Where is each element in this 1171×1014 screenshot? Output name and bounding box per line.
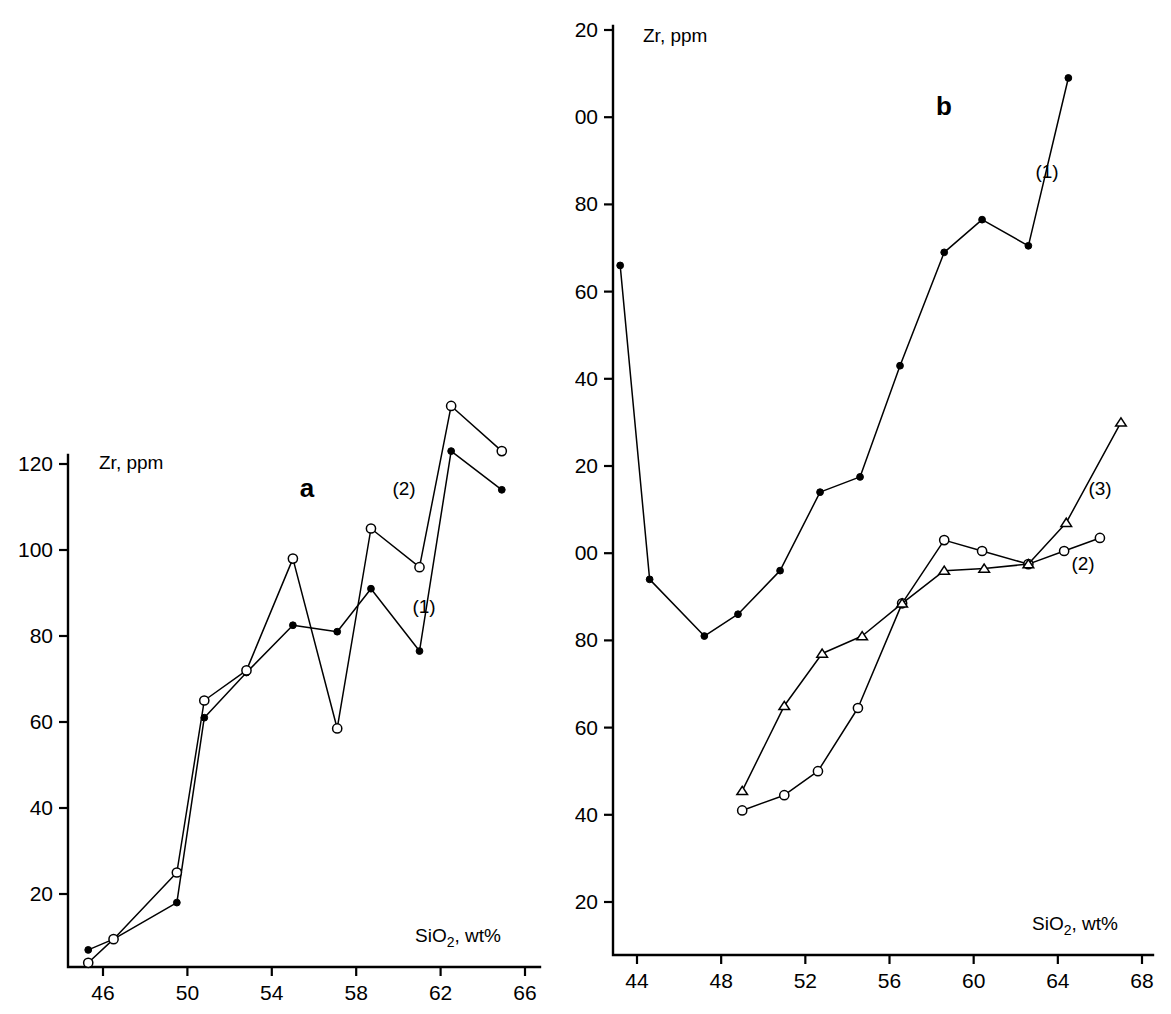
y-tick-label: 100	[575, 541, 598, 564]
x-axis-ticks-a: 465054586266	[91, 967, 536, 1004]
y-tick-label: 120	[575, 454, 598, 477]
series-line	[742, 422, 1121, 790]
x-tick-label: 56	[878, 969, 901, 992]
data-point-marker	[977, 546, 986, 555]
x-axis-title: SiO2, wt%	[415, 925, 501, 950]
series-annotation-label: (2)	[392, 478, 415, 499]
y-tick-label: 100	[18, 538, 53, 561]
data-point-marker	[288, 554, 297, 563]
x-tick-label: 54	[260, 981, 284, 1004]
data-point-marker	[416, 648, 423, 655]
data-point-marker	[447, 401, 456, 410]
data-point-marker	[242, 666, 251, 675]
y-tick-label: 200	[575, 105, 598, 128]
x-tick-label: 58	[345, 981, 368, 1004]
y-axis-title: Zr, ppm	[643, 25, 707, 46]
series-annotation-label: (2)	[1071, 553, 1094, 574]
data-point-marker	[857, 474, 864, 481]
data-point-marker	[817, 649, 828, 657]
panel-b: 2040608010012014016018020022044485256606…	[575, 0, 1171, 1014]
series-line	[742, 538, 1100, 811]
x-tick-label: 46	[91, 981, 114, 1004]
data-point-marker	[1025, 242, 1032, 249]
y-tick-label: 20	[30, 882, 53, 905]
data-point-marker	[853, 703, 862, 712]
x-tick-label: 68	[1130, 969, 1153, 992]
y-tick-label: 40	[30, 796, 53, 819]
data-point-marker	[737, 786, 748, 794]
series-a-2	[84, 401, 507, 967]
data-point-marker	[897, 362, 904, 369]
y-tick-label: 60	[575, 716, 598, 739]
figure-container: 20406080100120465054586266Zr, ppmSiO2, w…	[0, 0, 1171, 1014]
panel-a: 20406080100120465054586266Zr, ppmSiO2, w…	[0, 0, 575, 1014]
y-tick-label: 20	[575, 890, 598, 913]
data-point-marker	[498, 486, 505, 493]
series-line	[620, 78, 1068, 636]
data-point-marker	[701, 633, 708, 640]
x-tick-label: 62	[429, 981, 452, 1004]
data-point-marker	[1095, 533, 1104, 542]
axis-spine	[68, 455, 540, 967]
data-point-marker	[738, 806, 747, 815]
data-point-marker	[617, 262, 624, 269]
x-tick-label: 66	[513, 981, 536, 1004]
data-point-marker	[1065, 75, 1072, 82]
x-tick-label: 60	[962, 969, 985, 992]
data-point-marker	[780, 791, 789, 800]
data-point-marker	[366, 524, 375, 533]
axis-spine	[613, 26, 1153, 955]
y-axis-ticks-a: 20406080100120	[18, 452, 68, 905]
x-tick-label: 44	[625, 969, 649, 992]
data-point-marker	[1061, 518, 1072, 526]
data-point-marker	[415, 563, 424, 572]
data-point-marker	[290, 622, 297, 629]
series-line	[88, 451, 502, 950]
data-point-marker	[777, 567, 784, 574]
x-axis-title: SiO2, wt%	[1032, 913, 1118, 938]
data-point-marker	[200, 696, 209, 705]
series-annotation-label: (1)	[1035, 161, 1058, 182]
data-point-marker	[368, 585, 375, 592]
y-tick-label: 140	[575, 367, 598, 390]
data-point-marker	[173, 899, 180, 906]
series-line	[88, 406, 502, 963]
panel-letter-a: a	[300, 473, 315, 503]
y-tick-label: 220	[575, 18, 598, 41]
x-tick-label: 64	[1046, 969, 1070, 992]
series-b-1	[617, 75, 1072, 640]
data-point-marker	[84, 958, 93, 967]
data-point-marker	[1060, 546, 1069, 555]
data-point-marker	[646, 576, 653, 583]
data-point-marker	[1116, 418, 1127, 426]
series-b-2	[738, 533, 1105, 815]
data-point-marker	[172, 868, 181, 877]
x-tick-label: 50	[176, 981, 199, 1004]
axes-group-a	[68, 455, 540, 967]
y-tick-label: 60	[30, 710, 53, 733]
y-tick-label: 80	[30, 624, 53, 647]
data-point-marker	[940, 536, 949, 545]
series-annotation-label: (1)	[412, 596, 435, 617]
x-axis-ticks-b: 44485256606468	[625, 955, 1153, 992]
data-point-marker	[109, 935, 118, 944]
data-point-marker	[334, 628, 341, 635]
data-point-marker	[333, 724, 342, 733]
data-point-marker	[817, 489, 824, 496]
axes-group-b	[613, 26, 1153, 955]
series-a-1	[85, 448, 505, 954]
y-tick-label: 80	[575, 628, 598, 651]
data-point-marker	[448, 448, 455, 455]
y-tick-label: 180	[575, 192, 598, 215]
data-point-marker	[979, 216, 986, 223]
series-annotation-label: (3)	[1088, 478, 1111, 499]
x-tick-label: 48	[709, 969, 732, 992]
series-b-3	[737, 418, 1126, 795]
x-tick-label: 52	[794, 969, 817, 992]
y-tick-label: 120	[18, 452, 53, 475]
data-point-marker	[497, 447, 506, 456]
y-tick-label: 160	[575, 280, 598, 303]
y-axis-title: Zr, ppm	[99, 452, 163, 473]
data-point-marker	[813, 767, 822, 776]
data-point-marker	[85, 947, 92, 954]
